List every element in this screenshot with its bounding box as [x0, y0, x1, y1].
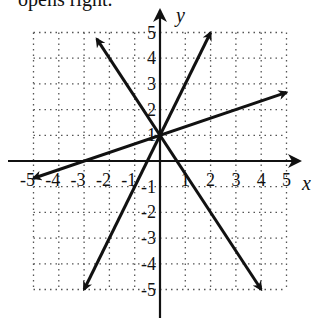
x-axis-label: x	[301, 172, 311, 194]
axes: xy	[8, 4, 311, 318]
x-tick-label: 4	[257, 170, 266, 190]
x-tick-label: -3	[71, 170, 86, 190]
y-tick-label: -4	[141, 254, 156, 274]
y-tick-label: -2	[141, 202, 156, 222]
x-tick-label: -5	[20, 170, 35, 190]
x-tick-label: 3	[231, 170, 240, 190]
y-axis-label: y	[174, 4, 185, 27]
x-tick-label: 2	[206, 170, 215, 190]
y-tick-label: 3	[147, 74, 156, 94]
y-tick-label: -3	[141, 228, 156, 248]
x-tick-label: 5	[282, 170, 291, 190]
y-tick-label: 4	[147, 48, 156, 68]
x-tick-label: -2	[96, 170, 111, 190]
coordinate-plane: xy -5-4-3-2-11234554321-1-2-3-4-5	[0, 0, 316, 321]
y-tick-label: 5	[147, 23, 156, 43]
y-tick-label: -5	[141, 280, 156, 300]
y-tick-label: -1	[141, 177, 156, 197]
